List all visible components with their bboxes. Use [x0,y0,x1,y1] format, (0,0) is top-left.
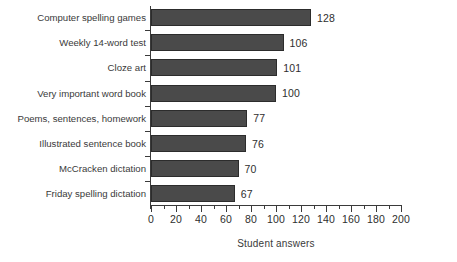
bar-value-label: 100 [282,87,300,99]
category-label: Very important word book [0,85,146,102]
x-axis-minor-tick [164,206,165,209]
x-axis-tick-label: 140 [317,213,335,225]
x-axis-major-tick [351,206,352,212]
bar-row: 76 [151,135,401,152]
bar-row: 100 [151,85,401,102]
x-axis-major-tick [376,206,377,212]
x-axis-tick-label: 160 [342,213,360,225]
category-label: Illustrated sentence book [0,135,146,152]
x-axis-tick-label: 0 [148,213,154,225]
y-axis-tick [145,30,150,31]
bar-value-label: 77 [253,112,265,124]
bar-value-label: 128 [317,12,335,24]
x-axis-major-tick [301,206,302,212]
plot-area: 12810610110077767067 [151,8,401,205]
x-axis-tick-label: 180 [367,213,385,225]
y-axis-tick [145,106,150,107]
x-axis-minor-tick [289,206,290,209]
x-axis-tick-label: 120 [292,213,310,225]
category-label: Weekly 14-word test [0,34,146,51]
y-axis-tick [145,81,150,82]
y-axis-line [150,6,151,209]
x-axis-tick-label: 80 [245,213,257,225]
x-axis-minor-tick [389,206,390,209]
bar [151,110,247,127]
category-axis-labels: Computer spelling gamesWeekly 14-word te… [0,8,146,205]
x-axis-minor-tick [364,206,365,209]
bar-value-label: 67 [241,188,253,200]
x-axis-minor-tick [264,206,265,209]
bar-value-label: 76 [252,138,264,150]
bar-row: 128 [151,9,401,26]
x-axis-major-tick [401,206,402,212]
bar-value-label: 106 [290,37,308,49]
x-axis-major-tick [176,206,177,212]
x-axis-major-tick [201,206,202,212]
bar-row: 67 [151,185,401,202]
bar-row: 106 [151,34,401,51]
x-axis-minor-tick [339,206,340,209]
category-label: Cloze art [0,59,146,76]
bar-value-label: 101 [283,62,301,74]
bar [151,85,276,102]
bar [151,59,277,76]
y-axis-tick [145,181,150,182]
bar [151,160,239,177]
category-label: Computer spelling games [0,9,146,26]
x-axis-tick-label: 40 [195,213,207,225]
x-axis-tick-label: 200 [392,213,410,225]
category-label: McCracken dictation [0,160,146,177]
x-axis-major-tick [251,206,252,212]
x-axis-minor-tick [189,206,190,209]
bar-chart: Computer spelling gamesWeekly 14-word te… [0,0,457,262]
bar [151,34,284,51]
bar-value-label: 70 [245,163,257,175]
category-label: Poems, sentences, homework [0,110,146,127]
x-axis-major-tick [326,206,327,212]
bar-row: 101 [151,59,401,76]
x-axis-minor-tick [314,206,315,209]
x-axis-major-tick [151,206,152,212]
x-axis-major-tick [276,206,277,212]
x-axis-minor-tick [239,206,240,209]
bar [151,135,246,152]
bar [151,9,311,26]
x-axis-tick-label: 60 [220,213,232,225]
x-axis-major-tick [226,206,227,212]
category-label: Friday spelling dictation [0,185,146,202]
x-axis-title: Student answers [151,238,401,249]
y-axis-tick [145,131,150,132]
y-axis-tick [145,156,150,157]
x-axis-minor-tick [214,206,215,209]
y-axis-tick [145,55,150,56]
x-axis-tick-label: 20 [170,213,182,225]
x-axis-tick-label: 100 [267,213,285,225]
bar-row: 77 [151,110,401,127]
bar-row: 70 [151,160,401,177]
bar [151,185,235,202]
